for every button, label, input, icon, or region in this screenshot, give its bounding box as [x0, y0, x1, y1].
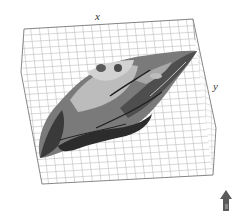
- y-axis-label: y: [213, 80, 218, 92]
- terrain-surface[interactable]: [39, 51, 197, 158]
- north-arrow-icon[interactable]: [220, 190, 232, 211]
- 3d-plot-viewport[interactable]: x y: [0, 0, 249, 224]
- x-axis-label: x: [95, 10, 100, 22]
